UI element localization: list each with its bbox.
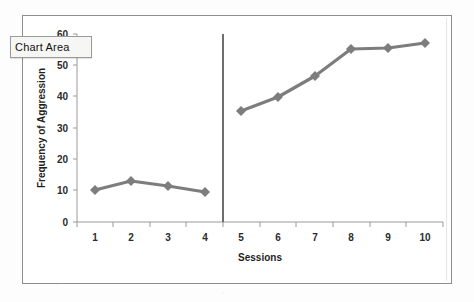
x-tick-label-3: 3	[165, 232, 171, 243]
chart-area-tooltip: Chart Area	[10, 36, 92, 58]
data-point-session-3	[163, 181, 173, 191]
x-tick-label-7: 7	[312, 232, 318, 243]
y-tick-label-0: 0	[62, 217, 68, 228]
x-tick-label-5: 5	[238, 232, 244, 243]
y-tick-label-20: 20	[57, 154, 69, 165]
data-point-session-4	[200, 187, 210, 197]
series-line-baseline	[95, 181, 205, 192]
y-axis-title: Frequency of Aggression	[36, 68, 47, 188]
y-axis-ticks	[73, 34, 77, 222]
series-line-intervention	[241, 43, 425, 111]
data-point-session-1	[90, 185, 100, 195]
x-tick-label-9: 9	[385, 232, 391, 243]
x-tick-label-10: 10	[419, 232, 431, 243]
data-point-session-9	[383, 43, 393, 53]
x-axis-title: Sessions	[238, 252, 282, 263]
chart-area-tooltip-label: Chart Area	[15, 41, 70, 53]
x-tick-label-6: 6	[275, 232, 281, 243]
y-tick-label-40: 40	[57, 91, 69, 102]
data-point-session-10	[420, 38, 430, 48]
x-tick-label-2: 2	[128, 232, 134, 243]
x-tick-label-4: 4	[202, 232, 208, 243]
series-markers	[90, 38, 430, 197]
y-tick-label-30: 30	[57, 123, 69, 134]
x-axis-ticks	[77, 222, 443, 227]
y-tick-label-50: 50	[57, 60, 69, 71]
x-tick-label-1: 1	[92, 232, 98, 243]
y-tick-label-10: 10	[57, 185, 69, 196]
data-point-session-2	[126, 176, 136, 186]
data-point-session-5	[236, 106, 246, 116]
x-tick-label-8: 8	[348, 232, 354, 243]
